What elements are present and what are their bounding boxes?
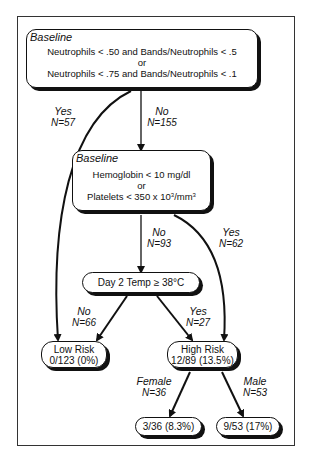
node-value: 3/36 (8.3%)	[143, 421, 195, 432]
node-male-leaf: 9/53 (17%)	[216, 417, 280, 436]
node-heading: Baseline	[27, 31, 257, 44]
node-baseline-hemoglobin: Baseline Hemoglobin < 10 mg/dl or Platel…	[72, 150, 211, 211]
criterion-line: Neutrophils < .75 and Bands/Neutrophils …	[27, 68, 257, 79]
edge-root-yes	[56, 91, 131, 340]
criterion-line: Platelets < 350 x 103/mm3	[73, 191, 210, 202]
node-value: 0/123 (0%)	[42, 355, 106, 366]
node-value: 9/53 (17%)	[224, 421, 273, 432]
edge-label-b2-yes: Yes N=62	[215, 227, 247, 249]
edge-label-hr-female: Female N=36	[132, 376, 176, 398]
edge-label-b2-no: No N=93	[143, 227, 175, 249]
edge-day2-no	[97, 296, 127, 340]
criterion-line: Hemoglobin < 10 mg/dl	[73, 169, 210, 180]
node-low-risk: Low Risk 0/123 (0%)	[41, 341, 107, 368]
node-day2-temp: Day 2 Temp ≥ 38°C	[82, 272, 200, 293]
node-female-leaf: 3/36 (8.3%)	[135, 417, 202, 436]
criterion-line: Neutrophils < .50 and Bands/Neutrophils …	[27, 46, 257, 57]
edge-label-hr-male: Male N=53	[237, 376, 273, 398]
node-title: High Risk	[168, 344, 237, 355]
edge-label-root-no: No N=155	[143, 106, 181, 128]
node-label: Day 2 Temp ≥ 38°C	[98, 277, 185, 288]
edge-label-day2-no: No N=66	[68, 306, 100, 328]
node-value: 12/89 (13.5%)	[168, 355, 237, 366]
node-title: Low Risk	[42, 344, 106, 355]
node-high-risk: High Risk 12/89 (13.5%)	[167, 341, 238, 368]
node-root-baseline: Baseline Neutrophils < .50 and Bands/Neu…	[26, 29, 258, 88]
criterion-or: or	[73, 180, 210, 191]
edge-label-day2-yes: Yes N=27	[182, 306, 214, 328]
node-heading: Baseline	[73, 152, 210, 165]
criterion-or: or	[27, 57, 257, 68]
edge-label-root-yes: Yes N=57	[47, 106, 79, 128]
